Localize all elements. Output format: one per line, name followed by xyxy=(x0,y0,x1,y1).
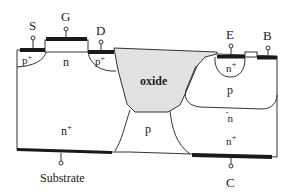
n-plus-emitter-sup: + xyxy=(232,59,237,69)
collector-terminal xyxy=(229,164,233,168)
source-terminal xyxy=(31,36,35,40)
p-isolation-label: p xyxy=(145,122,151,136)
drain-terminal xyxy=(99,40,103,44)
n-plus-substrate-sup: + xyxy=(67,122,72,132)
n-minus-drift-sup: - xyxy=(226,108,229,117)
p-isolation-right-boundary xyxy=(170,111,190,154)
oxide-label: oxide xyxy=(140,74,168,88)
n-plus-emitter-label: n+ xyxy=(226,59,237,74)
base-metal xyxy=(257,56,277,60)
p-plus-drain-sup: + xyxy=(101,54,106,63)
collector-label: C xyxy=(226,175,235,190)
p-plus-drain-label: p+ xyxy=(95,54,106,67)
source-metal xyxy=(20,48,45,52)
base-terminal xyxy=(266,46,270,50)
substrate-terminal xyxy=(59,161,63,165)
gate-oxide xyxy=(45,40,88,52)
emitter-terminal xyxy=(229,44,233,48)
drain-label: D xyxy=(96,23,105,38)
n-channel-label: n xyxy=(63,55,69,69)
source-label: S xyxy=(29,18,36,33)
base-label: B xyxy=(263,28,272,43)
p-isolation-left-boundary xyxy=(115,110,130,151)
emitter-metal xyxy=(217,55,245,59)
collector-metal xyxy=(192,153,272,159)
base-oxide xyxy=(245,52,257,57)
substrate-metal xyxy=(17,148,112,154)
p-plus-source-sup: + xyxy=(28,53,33,62)
device-cross-section: S G D E B C Substrate p+ n p+ oxide n+ p… xyxy=(0,0,289,196)
gate-metal xyxy=(46,37,87,41)
n-minus-drift-label: n- xyxy=(226,108,234,124)
p-plus-source-label: p+ xyxy=(22,53,33,66)
gate-terminal xyxy=(64,27,68,31)
emitter-label: E xyxy=(226,27,234,42)
p-base-label: p xyxy=(227,83,233,97)
n-plus-substrate-label: n+ xyxy=(61,122,72,138)
substrate-label: Substrate xyxy=(40,171,85,185)
n-plus-collector-sup: + xyxy=(232,132,237,142)
gate-label: G xyxy=(61,9,70,24)
n-plus-collector-label: n+ xyxy=(226,132,237,147)
